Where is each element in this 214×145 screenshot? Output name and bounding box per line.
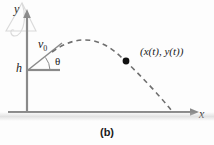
x-axis-label: x <box>199 108 204 120</box>
scan-artifact-mark <box>0 0 38 40</box>
position-marker-dot <box>123 58 130 65</box>
launch-angle-label: θ <box>55 56 60 67</box>
angle-arc <box>46 58 51 71</box>
position-point-label: (x(t), y(t)) <box>140 46 183 57</box>
projectile-motion-figure: y x h v0 θ (x(t), y(t)) (b) <box>0 0 214 145</box>
launch-height-label: h <box>16 62 22 74</box>
x-axis-arrowhead <box>190 108 199 116</box>
initial-velocity-subscript: 0 <box>43 44 47 53</box>
initial-velocity-label: v0 <box>38 38 47 53</box>
figure-caption: (b) <box>0 126 214 138</box>
